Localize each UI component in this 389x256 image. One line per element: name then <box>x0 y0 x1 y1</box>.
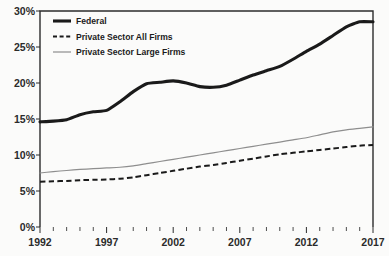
y-tick-label: 15% <box>14 113 36 125</box>
x-tick-label: 1992 <box>28 236 52 248</box>
y-tick-label: 10% <box>14 149 36 161</box>
y-tick-label: 30% <box>14 5 36 17</box>
legend-label: Federal <box>76 16 107 26</box>
x-tick-label: 2017 <box>361 236 385 248</box>
x-tick-label: 2012 <box>295 236 319 248</box>
y-tick-label: 5% <box>20 185 36 197</box>
y-tick-label: 0% <box>20 221 36 233</box>
legend-label: Private Sector Large Firms <box>76 47 186 57</box>
legend-label: Private Sector All Firms <box>76 32 173 42</box>
line-chart: 0%5%10%15%20%25%30% 19921997200220072012… <box>0 0 389 256</box>
x-tick-label: 2002 <box>162 236 186 248</box>
y-tick-label: 20% <box>14 77 36 89</box>
chart-canvas: 0%5%10%15%20%25%30% 19921997200220072012… <box>0 0 389 256</box>
y-tick-label: 25% <box>14 41 36 53</box>
x-tick-label: 1997 <box>95 236 119 248</box>
x-tick-label: 2007 <box>228 236 252 248</box>
